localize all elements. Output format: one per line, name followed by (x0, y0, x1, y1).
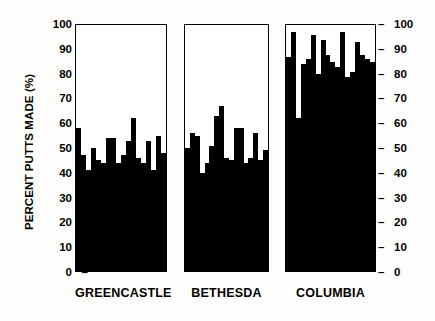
y-tick-label: 0 (394, 265, 419, 279)
y-tick-right-0: –0 (378, 265, 419, 279)
bar-series-greencastle (76, 25, 166, 271)
y-tick-label: 0 (47, 265, 72, 279)
y-tick-label: 70 (47, 91, 72, 105)
y-tick-label: 60 (394, 116, 419, 130)
bar (370, 62, 375, 271)
y-tick-mark: – (378, 240, 390, 254)
y-tick-mark: – (378, 215, 390, 229)
y-tick-mark: – (378, 42, 390, 56)
y-tick-label: 50 (47, 141, 72, 155)
y-tick-mark: – (378, 17, 390, 31)
bar-series-columbia (286, 25, 375, 271)
y-tick-label: 80 (47, 67, 72, 81)
y-tick-right-80: –80 (378, 67, 419, 81)
y-tick-label: 70 (394, 91, 419, 105)
bar-series-bethesda (185, 25, 268, 271)
y-tick-label: 30 (47, 191, 72, 205)
y-tick-right-60: –60 (378, 116, 419, 130)
chart-figure: PERCENT PUTTS MADE (%) 0–10–20–30–40–50–… (0, 0, 435, 321)
panel-bethesda (184, 24, 269, 272)
y-tick-label: 20 (47, 215, 72, 229)
y-tick-label: 40 (47, 166, 72, 180)
bar (161, 153, 166, 271)
y-tick-label: 20 (394, 215, 419, 229)
y-tick-label: 100 (47, 17, 72, 31)
y-tick-label: 60 (47, 116, 72, 130)
panel-label-greencastle: GREENCASTLE (75, 286, 167, 300)
y-tick-label: 80 (394, 67, 419, 81)
y-tick-right-20: –20 (378, 215, 419, 229)
y-axis-right: –0–10–20–30–40–50–60–70–80–90–100 (378, 0, 435, 321)
y-tick-right-100: –100 (378, 17, 419, 31)
y-tick-mark: – (378, 67, 390, 81)
panel-greencastle (75, 24, 167, 272)
y-tick-label: 10 (47, 240, 72, 254)
y-tick-right-10: –10 (378, 240, 419, 254)
panel-label-bethesda: BETHESDA (184, 286, 269, 300)
bar (263, 150, 268, 271)
y-tick-label: 100 (394, 17, 419, 31)
y-tick-label: 10 (394, 240, 419, 254)
y-tick-right-50: –50 (378, 141, 419, 155)
y-tick-label: 90 (47, 42, 72, 56)
y-tick-mark: – (378, 191, 390, 205)
y-tick-mark: – (378, 166, 390, 180)
y-tick-right-30: –30 (378, 191, 419, 205)
panel-columbia (285, 24, 376, 272)
y-tick-mark: – (378, 91, 390, 105)
y-tick-label: 40 (394, 166, 419, 180)
y-tick-right-90: –90 (378, 42, 419, 56)
y-tick-label: 30 (394, 191, 419, 205)
y-tick-label: 90 (394, 42, 419, 56)
panel-label-columbia: COLUMBIA (285, 286, 376, 300)
y-tick-mark: – (378, 116, 390, 130)
y-tick-mark: – (378, 265, 390, 279)
y-tick-right-40: –40 (378, 166, 419, 180)
y-tick-mark: – (378, 141, 390, 155)
y-tick-label: 50 (394, 141, 419, 155)
y-tick-right-70: –70 (378, 91, 419, 105)
